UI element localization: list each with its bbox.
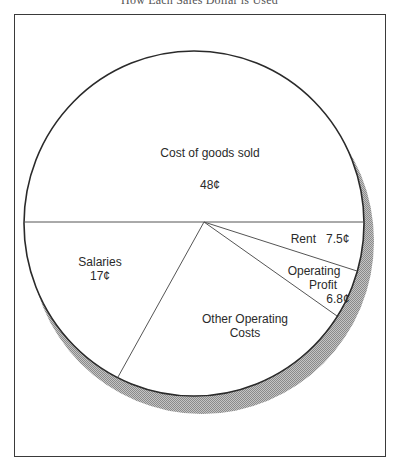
slice-label-op-profit-2: Profit xyxy=(298,278,348,292)
pie-body xyxy=(24,51,364,396)
slice-label-op-profit-1: Operating xyxy=(284,264,344,278)
slice-label-rent: Rent 7.5¢ xyxy=(285,232,355,246)
slice-value-cogs: 48¢ xyxy=(170,178,250,192)
slice-label-salaries: Salaries xyxy=(60,255,140,269)
slice-label-other-2: Costs xyxy=(185,326,305,340)
slice-value-salaries: 17¢ xyxy=(60,269,140,283)
slice-value-op-profit: 6.8¢ xyxy=(318,292,358,306)
slice-label-other-1: Other Operating xyxy=(185,312,305,326)
slice-label-cogs: Cost of goods sold xyxy=(150,146,270,160)
